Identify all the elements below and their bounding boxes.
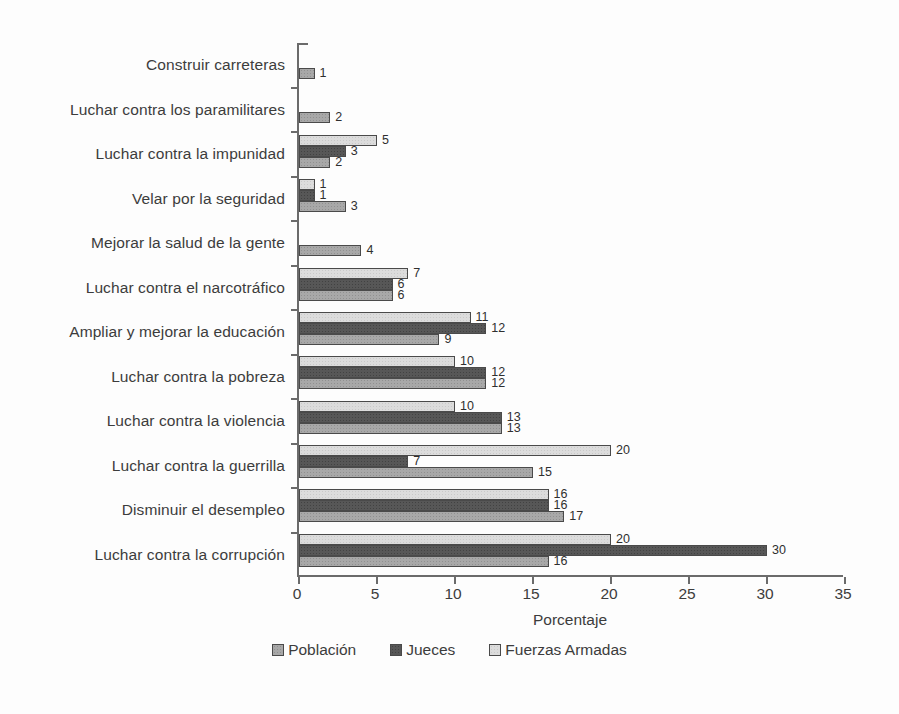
legend-label: Jueces xyxy=(406,641,455,659)
bar-slot xyxy=(299,46,843,57)
value-label: 3 xyxy=(351,200,358,212)
bar-slot: 16 xyxy=(299,489,843,500)
bar-group: 4 xyxy=(299,220,843,264)
bar-slot: 5 xyxy=(299,135,843,146)
y-axis-tick xyxy=(291,265,299,267)
bar-slot xyxy=(299,57,843,68)
bar-group: 1 xyxy=(299,43,843,87)
value-label: 6 xyxy=(398,289,405,301)
y-axis-tick xyxy=(291,220,299,222)
bar-slot: 20 xyxy=(299,534,843,545)
category-label: Luchar contra la impunidad xyxy=(0,132,285,177)
bar-slot: 12 xyxy=(299,378,843,389)
value-label: 20 xyxy=(616,444,630,456)
x-axis-tick-label: 15 xyxy=(522,585,539,603)
bar-slot: 10 xyxy=(299,356,843,367)
x-axis-tick-label: 35 xyxy=(834,585,851,603)
bar-slot: 10 xyxy=(299,401,843,412)
legend-label: Fuerzas Armadas xyxy=(505,641,626,659)
bar-slot xyxy=(299,234,843,245)
bar-población xyxy=(299,467,533,478)
bar-group: 203016 xyxy=(299,531,843,575)
category-label: Luchar contra el narcotráfico xyxy=(0,266,285,311)
value-label: 10 xyxy=(460,355,474,367)
bar-slot: 3 xyxy=(299,201,843,212)
bar-slot: 9 xyxy=(299,334,843,345)
y-axis-tick xyxy=(291,487,299,489)
bar-jueces xyxy=(299,279,393,290)
y-axis-tick xyxy=(291,354,299,356)
bar-chart: Construir carreterasLuchar contra los pa… xyxy=(0,0,899,714)
bar-slot: 20 xyxy=(299,445,843,456)
value-label: 3 xyxy=(351,145,358,157)
bar-población xyxy=(299,511,564,522)
bar-jueces xyxy=(299,190,315,201)
bar-jueces xyxy=(299,456,408,467)
x-axis-tick xyxy=(688,577,690,584)
bar-fuerzas-armadas xyxy=(299,445,611,456)
value-label: 1 xyxy=(320,67,327,79)
value-label: 16 xyxy=(554,555,568,567)
bar-slot: 7 xyxy=(299,268,843,279)
bar-población xyxy=(299,68,315,79)
value-label: 7 xyxy=(413,267,420,279)
bar-población xyxy=(299,157,330,168)
bar-población xyxy=(299,423,502,434)
y-axis-tick xyxy=(291,443,299,445)
bar-group: 101313 xyxy=(299,398,843,442)
bar-rows: 1253211347661112910121210131320715161617… xyxy=(299,43,843,575)
bar-población xyxy=(299,245,361,256)
category-label: Velar por la seguridad xyxy=(0,177,285,222)
bar-jueces xyxy=(299,367,486,378)
bar-group: 161617 xyxy=(299,486,843,530)
bar-group: 11129 xyxy=(299,309,843,353)
category-label: Construir carreteras xyxy=(0,43,285,88)
bar-group: 113 xyxy=(299,176,843,220)
value-label: 2 xyxy=(335,156,342,168)
legend-item-jueces: Jueces xyxy=(390,641,455,659)
value-label: 4 xyxy=(366,244,373,256)
x-axis-tick xyxy=(376,577,378,584)
legend-swatch-icon xyxy=(489,644,501,656)
bar-slot: 15 xyxy=(299,467,843,478)
bar-slot: 12 xyxy=(299,367,843,378)
bar-slot: 1 xyxy=(299,68,843,79)
bar-slot: 2 xyxy=(299,112,843,123)
bar-slot: 1 xyxy=(299,179,843,190)
x-axis-tick-label: 30 xyxy=(756,585,773,603)
bar-group: 532 xyxy=(299,132,843,176)
bar-slot: 1 xyxy=(299,190,843,201)
bar-slot: 12 xyxy=(299,323,843,334)
bar-group: 2 xyxy=(299,87,843,131)
bar-slot: 16 xyxy=(299,556,843,567)
value-label: 9 xyxy=(444,333,451,345)
value-label: 5 xyxy=(382,134,389,146)
bar-group: 101212 xyxy=(299,353,843,397)
bar-slot: 13 xyxy=(299,412,843,423)
bar-fuerzas-armadas xyxy=(299,312,471,323)
category-label: Luchar contra la violencia xyxy=(0,399,285,444)
bar-slot: 17 xyxy=(299,511,843,522)
y-axis-tick xyxy=(291,309,299,311)
value-label: 20 xyxy=(616,533,630,545)
value-label: 16 xyxy=(554,499,568,511)
category-axis-labels: Construir carreterasLuchar contra los pa… xyxy=(0,43,285,577)
bar-slot: 13 xyxy=(299,423,843,434)
legend: PoblaciónJuecesFuerzas Armadas xyxy=(0,641,899,659)
bar-slot: 2 xyxy=(299,157,843,168)
bar-fuerzas-armadas xyxy=(299,401,455,412)
bar-fuerzas-armadas xyxy=(299,179,315,190)
bar-slot: 30 xyxy=(299,545,843,556)
bar-población xyxy=(299,112,330,123)
bar-fuerzas-armadas xyxy=(299,534,611,545)
bar-jueces xyxy=(299,412,502,423)
category-label: Mejorar la salud de la gente xyxy=(0,221,285,266)
y-axis-tick xyxy=(291,532,299,534)
value-label: 12 xyxy=(491,322,505,334)
bar-jueces xyxy=(299,500,549,511)
x-axis-tick xyxy=(454,577,456,584)
y-axis-tick xyxy=(291,87,299,89)
value-label: 30 xyxy=(772,544,786,556)
legend-swatch-icon xyxy=(390,644,402,656)
bar-fuerzas-armadas xyxy=(299,268,408,279)
